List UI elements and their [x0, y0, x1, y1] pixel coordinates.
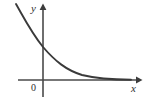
x-axis-arrowhead	[136, 76, 143, 83]
origin-label: 0	[31, 83, 36, 93]
decay-curve-path	[16, 4, 131, 80]
x-axis-label: x	[131, 83, 136, 94]
y-axis-arrowhead	[40, 4, 47, 10]
figure-canvas	[0, 0, 146, 104]
exponential-decay-figure: y x 0	[0, 0, 146, 104]
y-axis-label: y	[31, 3, 36, 14]
